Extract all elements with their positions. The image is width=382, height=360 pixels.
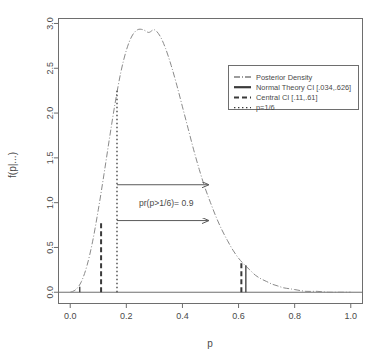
x-tick-label: 0.8 xyxy=(288,311,301,321)
legend-label: p=1/6 xyxy=(256,103,275,112)
x-tick-label: 0.6 xyxy=(232,311,245,321)
y-axis-title: f(p|...) xyxy=(7,152,18,178)
y-tick-label: 2.5 xyxy=(45,62,55,75)
probability-annotation-label: pr(p>1/6)= 0.9 xyxy=(139,198,194,208)
chart-container: 0.00.51.01.52.02.53.0 0.00.20.40.60.81.0… xyxy=(0,0,382,360)
posterior-density-plot: 0.00.51.01.52.02.53.0 0.00.20.40.60.81.0… xyxy=(0,0,382,360)
legend-label: Posterior Density xyxy=(256,73,313,82)
legend-label: Normal Theory CI [.034,.626] xyxy=(256,83,351,92)
x-tick-label: 1.0 xyxy=(345,311,358,321)
y-tick-label: 0.0 xyxy=(45,286,55,299)
x-tick-label: 0.4 xyxy=(176,311,189,321)
plot-background xyxy=(0,0,382,360)
y-tick-label: 1.0 xyxy=(45,196,55,209)
x-tick-label: 0.2 xyxy=(120,311,133,321)
legend-label: Central CI [.11,.61] xyxy=(256,93,317,102)
y-tick-label: 0.5 xyxy=(45,241,55,254)
x-axis-title: p xyxy=(207,338,213,349)
y-tick-label: 1.5 xyxy=(45,152,55,165)
x-tick-label: 0.0 xyxy=(64,311,77,321)
y-tick-label: 3.0 xyxy=(45,17,55,30)
y-tick-label: 2.0 xyxy=(45,107,55,120)
